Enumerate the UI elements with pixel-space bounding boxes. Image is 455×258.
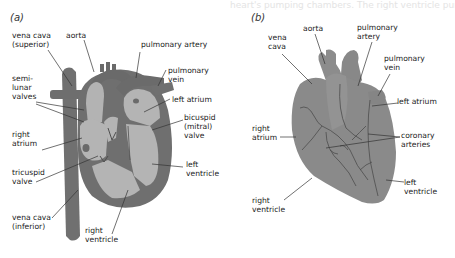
label-vena-cava-inferior: vena cava (inferior): [12, 213, 51, 231]
label-pulmonary-vein-a: pulmonary vein: [168, 66, 209, 84]
label-vena-cava-b: vena cava: [268, 33, 287, 51]
label-bicuspid-valve: bicuspid (mitral) valve: [184, 113, 216, 140]
label-right-atrium-a: right atrium: [12, 130, 37, 148]
label-aorta-b: aorta: [303, 24, 323, 33]
panel-label-b: (b): [251, 12, 265, 23]
label-pulmonary-vein-b: pulmonary vein: [384, 54, 425, 72]
label-left-atrium-a: left atrium: [172, 95, 212, 104]
label-right-ventricle-b: right ventricle: [252, 196, 285, 214]
label-right-atrium-b: right atrium: [252, 124, 277, 142]
label-left-ventricle-a: left ventricle: [186, 160, 219, 178]
label-left-ventricle-b: left ventricle: [404, 178, 437, 196]
label-left-atrium-b: left atrium: [397, 97, 437, 106]
label-semilunar-valves: semi- lunar valves: [12, 74, 36, 101]
label-vena-cava-superior: vena cava (superior): [12, 31, 51, 49]
aorta-chamber: [86, 82, 104, 124]
heart-cross-section: [50, 62, 174, 241]
label-pulmonary-artery-b: pulmonary artery: [357, 23, 398, 41]
right-atrium-chamber: [80, 120, 108, 161]
label-aorta-a: aorta: [66, 31, 86, 40]
label-tricuspid-valve: tricuspid valve: [12, 168, 45, 186]
label-pulmonary-artery-a: pulmonary artery: [141, 40, 207, 49]
label-right-ventricle-a: right ventricle: [85, 226, 118, 244]
heart-external-view: [292, 50, 396, 204]
label-coronary-arteries: coronary arteries: [401, 131, 435, 149]
panel-label-a: (a): [10, 12, 24, 23]
